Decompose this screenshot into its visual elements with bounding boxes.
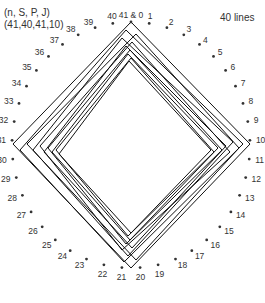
point-label: 38 <box>66 24 76 34</box>
point-dot <box>130 21 133 24</box>
point-label: 22 <box>98 269 108 279</box>
point-label: 32 <box>0 115 9 125</box>
point-dot <box>224 69 227 72</box>
point-dot <box>242 102 245 105</box>
point-dot <box>121 266 124 269</box>
point-dot <box>47 55 50 58</box>
point-dot <box>212 55 215 58</box>
point-label: 6 <box>230 62 235 72</box>
point-dot <box>11 158 14 161</box>
point-dot <box>238 194 241 197</box>
point-dot <box>139 266 142 269</box>
circle-diagram: 41 & 01234567891011121314151617181920212… <box>0 0 265 303</box>
point-label: 31 <box>0 135 6 145</box>
diamond-1 <box>20 30 243 262</box>
point-dot <box>182 33 185 36</box>
point-dot <box>18 102 21 105</box>
point-dot <box>69 249 72 252</box>
point-label: 26 <box>28 226 38 236</box>
point-dot <box>234 85 237 88</box>
point-dot <box>103 263 106 266</box>
diamond-5 <box>44 46 226 248</box>
point-dot <box>25 85 28 88</box>
point-dot <box>61 43 64 46</box>
point-label: 21 <box>117 272 127 282</box>
point-label: 13 <box>245 193 255 203</box>
point-dot <box>30 211 33 214</box>
point-label: 24 <box>58 251 68 261</box>
point-label: 16 <box>211 240 221 250</box>
point-label: 14 <box>236 210 246 220</box>
point-label: 4 <box>203 35 208 45</box>
point-dot <box>11 139 14 142</box>
point-label: 3 <box>187 24 192 34</box>
diamond-9 <box>59 61 211 233</box>
point-dot <box>249 139 252 142</box>
point-dot <box>198 43 201 46</box>
point-label: 30 <box>0 155 7 165</box>
point-label: 25 <box>42 240 52 250</box>
point-label: 35 <box>22 62 32 72</box>
point-dot <box>54 239 57 242</box>
diamond-3 <box>33 38 233 256</box>
diagram-canvas: (n, S, P, J) (41,40,41,10) 40 lines 41 &… <box>0 0 265 303</box>
diamond-8 <box>56 58 214 236</box>
point-dot <box>15 176 18 179</box>
point-label: 12 <box>252 174 262 184</box>
point-dot <box>13 120 16 123</box>
point-dot <box>85 258 88 261</box>
point-dot <box>246 120 249 123</box>
point-label: 1 <box>148 11 153 21</box>
point-dot <box>94 26 97 29</box>
point-label: 28 <box>7 193 17 203</box>
point-dot <box>41 225 44 228</box>
point-label: 41 & 0 <box>119 10 144 20</box>
point-label: 27 <box>17 210 27 220</box>
diamond-6 <box>48 50 222 244</box>
point-dot <box>218 225 221 228</box>
point-label: 17 <box>195 251 205 261</box>
point-label: 40 <box>107 11 117 21</box>
point-label: 34 <box>12 78 22 88</box>
point-dot <box>248 158 251 161</box>
point-label: 11 <box>255 155 264 165</box>
point-label: 37 <box>50 35 60 45</box>
point-label: 23 <box>75 260 85 270</box>
point-label: 2 <box>169 17 174 27</box>
point-label: 5 <box>218 47 223 57</box>
point-dot <box>35 69 38 72</box>
point-dot <box>230 211 233 214</box>
point-dot <box>174 258 177 261</box>
point-dot <box>21 194 24 197</box>
point-label: 33 <box>4 96 14 106</box>
point-dot <box>148 22 151 25</box>
point-label: 18 <box>178 260 188 270</box>
point-dot <box>111 22 114 25</box>
point-dot <box>77 33 80 36</box>
diamond-7 <box>52 54 218 240</box>
chord-lines <box>13 22 250 268</box>
point-label: 7 <box>241 78 246 88</box>
point-label: 36 <box>35 47 45 57</box>
point-dot <box>205 239 208 242</box>
point-label: 10 <box>256 135 265 145</box>
point-label: 29 <box>1 174 11 184</box>
point-label: 39 <box>84 17 94 27</box>
point-label: 20 <box>136 272 146 282</box>
point-dot <box>190 249 193 252</box>
point-label: 19 <box>155 269 165 279</box>
point-label: 8 <box>249 96 254 106</box>
point-label: 9 <box>254 115 259 125</box>
point-dot <box>157 263 160 266</box>
diamond-4 <box>40 42 230 250</box>
point-dot <box>244 176 247 179</box>
point-label: 15 <box>224 226 234 236</box>
